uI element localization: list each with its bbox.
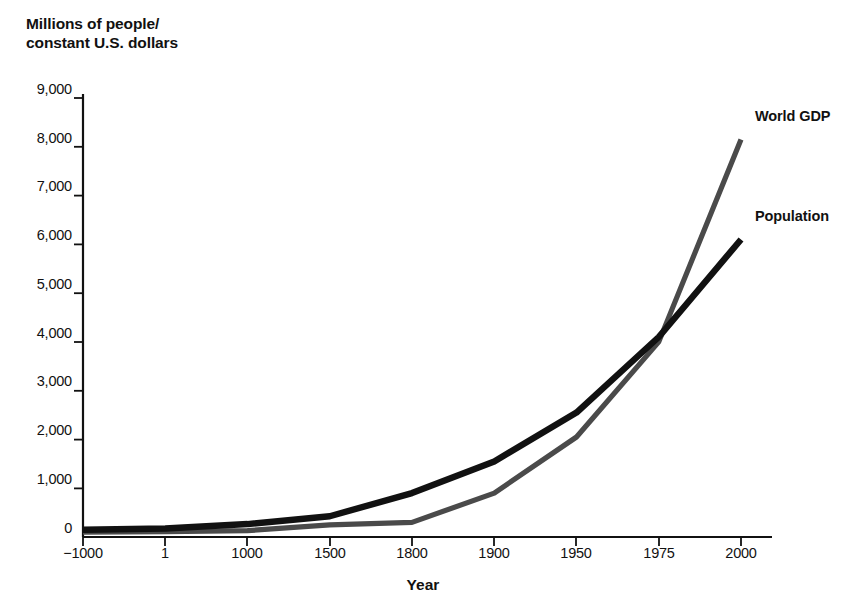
leader-line-world-gdp — [741, 133, 749, 138]
chart-figure: Millions of people/ constant U.S. dollar… — [0, 0, 866, 613]
y-tick-marks — [74, 98, 83, 488]
plot-area — [0, 0, 866, 613]
series-line-population — [83, 239, 741, 529]
series-line-world-gdp — [83, 139, 741, 532]
x-tick-marks — [83, 537, 741, 546]
